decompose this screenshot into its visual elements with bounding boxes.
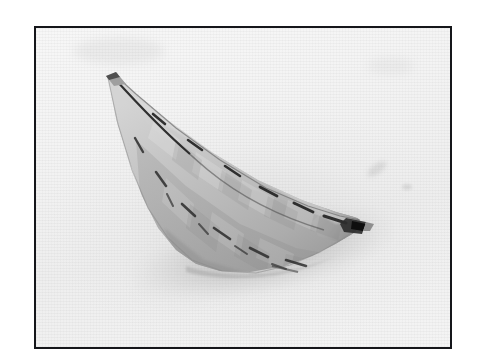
figure-description: Black-and-white photograph of a long, sl…: [0, 0, 1, 1]
page-root: Black-and-white photograph of a long, sl…: [0, 0, 481, 363]
framed-photograph: [34, 26, 452, 349]
model-boat-object: [36, 28, 450, 347]
